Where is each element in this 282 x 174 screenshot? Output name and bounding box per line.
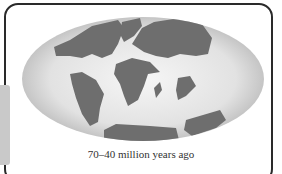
figure-caption: 70–40 million years ago <box>0 148 282 160</box>
world-map <box>20 14 266 144</box>
